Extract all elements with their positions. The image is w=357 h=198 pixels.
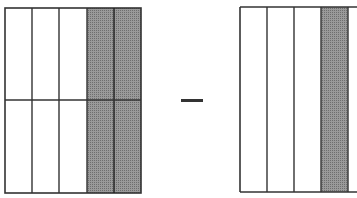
right-shaded-region <box>321 7 348 192</box>
left-fraction-model <box>5 8 141 193</box>
fraction-diagram <box>0 0 357 198</box>
minus-sign <box>181 99 203 102</box>
right-fraction-model <box>240 7 357 192</box>
